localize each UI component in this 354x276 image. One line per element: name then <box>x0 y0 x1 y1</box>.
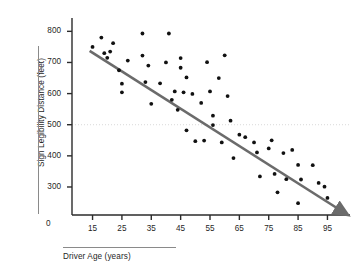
data-point <box>299 178 303 182</box>
data-point <box>267 146 271 150</box>
data-point <box>226 94 230 98</box>
data-point <box>217 76 221 80</box>
data-point <box>317 181 321 185</box>
data-point <box>223 53 227 57</box>
x-tick-label: 25 <box>112 224 132 233</box>
data-point <box>99 36 103 40</box>
x-tick-label: 75 <box>259 224 279 233</box>
data-point <box>179 66 183 70</box>
data-point <box>220 141 224 145</box>
data-point <box>211 123 215 127</box>
data-point <box>211 114 215 118</box>
data-point <box>243 135 247 139</box>
y-tick-label: 600 <box>35 89 61 98</box>
data-point <box>190 92 194 96</box>
data-point <box>179 56 183 60</box>
data-point <box>208 90 212 94</box>
data-point <box>164 61 168 65</box>
x-tick-label: 15 <box>83 224 103 233</box>
data-point <box>185 128 189 132</box>
x-tick-label: 55 <box>200 224 220 233</box>
data-point <box>108 50 112 54</box>
data-point <box>91 45 95 49</box>
origin-label: 0 <box>46 219 51 228</box>
y-tick-label: 400 <box>35 151 61 160</box>
y-tick-label: 300 <box>35 182 61 191</box>
y-tick-label: 800 <box>35 26 61 35</box>
data-point <box>149 102 153 106</box>
x-tick-label: 85 <box>288 224 308 233</box>
data-point <box>167 32 171 36</box>
data-point <box>105 56 109 60</box>
data-point <box>232 156 236 160</box>
y-tick-marks <box>67 31 72 187</box>
data-point <box>141 32 145 36</box>
data-point <box>173 90 177 94</box>
trend-line <box>90 51 338 209</box>
data-point <box>141 54 145 58</box>
data-point <box>182 90 186 94</box>
data-point <box>193 139 197 143</box>
x-axis-title-rule <box>63 247 176 248</box>
data-point <box>229 119 233 123</box>
data-point <box>284 177 288 181</box>
x-tick-marks <box>93 215 328 220</box>
data-point <box>185 76 189 80</box>
data-point <box>255 151 259 155</box>
data-point <box>311 163 315 167</box>
y-tick-label: 700 <box>35 57 61 66</box>
data-point <box>252 141 256 145</box>
data-point <box>120 90 124 94</box>
data-point <box>111 41 115 45</box>
data-point <box>126 59 130 63</box>
plot-area <box>0 0 354 276</box>
data-point <box>158 81 162 85</box>
x-tick-label: 95 <box>317 224 337 233</box>
data-point <box>170 98 174 102</box>
data-point <box>296 163 300 167</box>
data-point <box>258 175 262 179</box>
data-point <box>273 172 277 176</box>
data-point <box>144 80 148 84</box>
data-point <box>326 196 330 200</box>
x-tick-label: 65 <box>229 224 249 233</box>
data-point <box>120 82 124 86</box>
data-point <box>296 201 300 205</box>
scatter-plot-figure: Sign Legibility Distance (feet) Driver A… <box>0 0 354 276</box>
data-point <box>290 148 294 152</box>
x-axis-title: Driver Age (years) <box>63 252 131 261</box>
x-tick-label: 45 <box>171 224 191 233</box>
data-point <box>276 190 280 194</box>
x-tick-label: 35 <box>141 224 161 233</box>
data-point <box>102 51 106 55</box>
data-point <box>282 151 286 155</box>
data-point <box>323 185 327 189</box>
data-point <box>237 133 241 137</box>
data-point <box>202 139 206 143</box>
data-point <box>117 68 121 72</box>
data-point <box>199 101 203 105</box>
y-tick-label: 500 <box>35 120 61 129</box>
data-point <box>270 138 274 142</box>
data-point <box>205 60 209 64</box>
data-point <box>146 64 150 68</box>
data-point <box>176 108 180 112</box>
